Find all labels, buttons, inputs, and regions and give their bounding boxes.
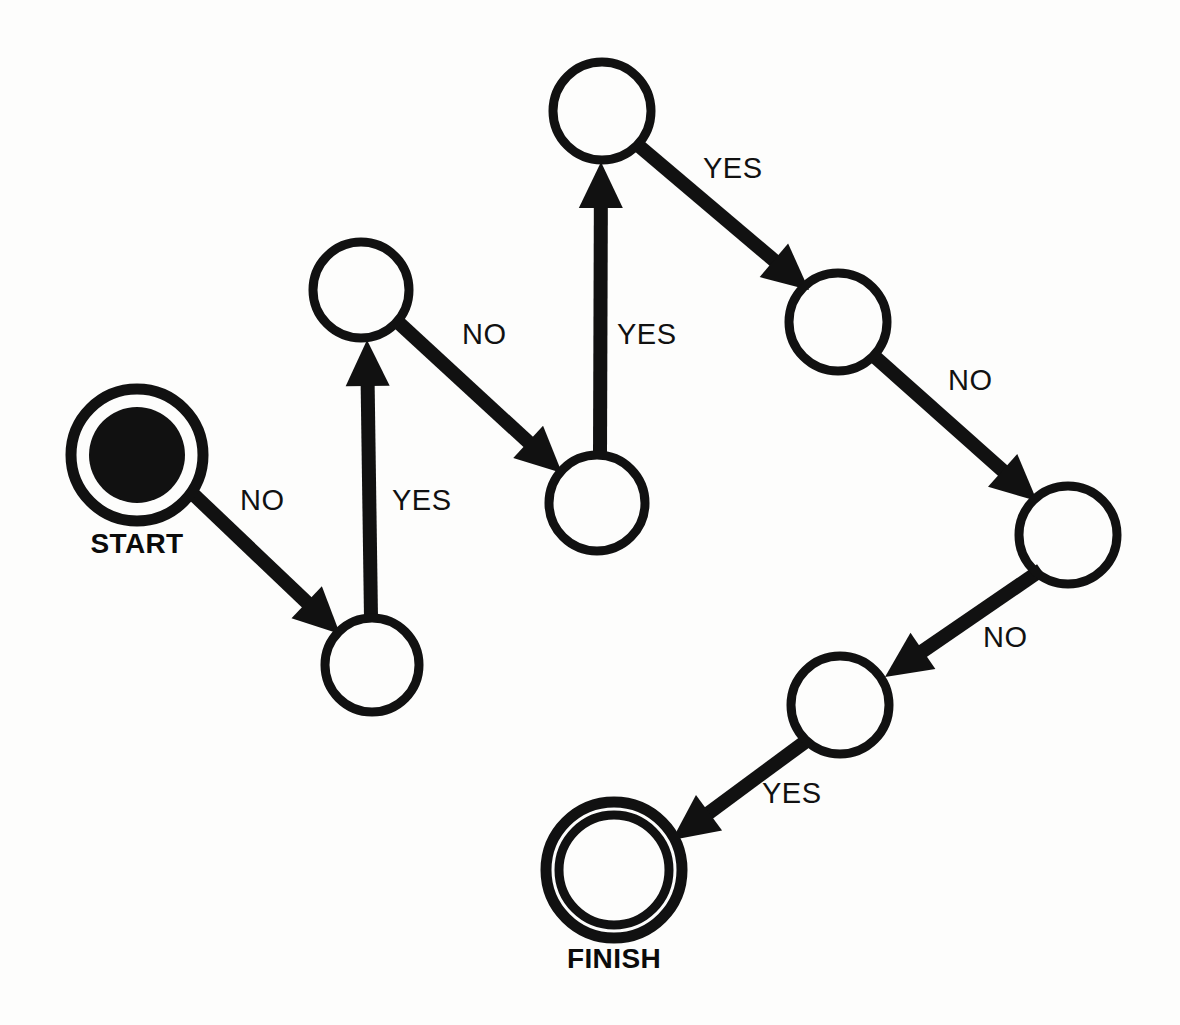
node-hit-area[interactable] bbox=[1019, 486, 1117, 584]
node-n5[interactable] bbox=[553, 62, 651, 160]
arrowhead-icon bbox=[346, 340, 390, 386]
edge-label-n7-to-n8: NO bbox=[983, 621, 1028, 653]
node-n2[interactable] bbox=[325, 618, 419, 712]
edge-label-n6-to-n7: NO bbox=[948, 364, 993, 396]
edge-shaft bbox=[600, 202, 601, 455]
edge-label-n3-to-n4: NO bbox=[462, 318, 507, 350]
edge-label-start-to-n2: NO bbox=[240, 484, 285, 516]
node-hit-area[interactable] bbox=[553, 62, 651, 160]
node-n6[interactable] bbox=[789, 273, 887, 371]
node-finish[interactable] bbox=[546, 802, 682, 938]
node-hit-area[interactable] bbox=[313, 242, 409, 338]
flow-diagram: NOYESNOYESYESNONOYESSTARTFINISH bbox=[0, 0, 1180, 1025]
node-hit-area[interactable] bbox=[325, 618, 419, 712]
node-hit-area[interactable] bbox=[789, 273, 887, 371]
edge-label-n4-to-n5: YES bbox=[617, 318, 677, 350]
diagram-canvas: NOYESNOYESYESNONOYESSTARTFINISH bbox=[0, 0, 1180, 1025]
edge-label-n8-to-finish: YES bbox=[762, 777, 822, 809]
node-hit-area[interactable] bbox=[549, 455, 645, 551]
node-n8[interactable] bbox=[791, 656, 889, 754]
node-label-finish: FINISH bbox=[567, 943, 661, 974]
edge-n2-to-n3[interactable] bbox=[346, 340, 390, 618]
node-n3[interactable] bbox=[313, 242, 409, 338]
edge-label-n5-to-n6: YES bbox=[703, 152, 763, 184]
arrowhead-icon bbox=[579, 162, 623, 208]
node-n4[interactable] bbox=[549, 455, 645, 551]
edge-shaft bbox=[368, 380, 371, 618]
edge-label-n2-to-n3: YES bbox=[392, 484, 452, 516]
node-start[interactable] bbox=[71, 389, 203, 521]
node-n7[interactable] bbox=[1019, 486, 1117, 584]
node-hit-area[interactable] bbox=[71, 389, 203, 521]
node-label-start: START bbox=[90, 528, 183, 559]
node-hit-area[interactable] bbox=[791, 656, 889, 754]
node-hit-area[interactable] bbox=[546, 802, 682, 938]
edge-n4-to-n5[interactable] bbox=[579, 162, 623, 455]
